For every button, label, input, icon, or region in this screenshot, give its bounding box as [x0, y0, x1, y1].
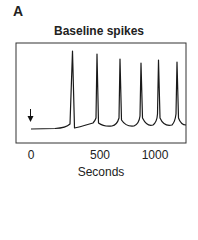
- x-tick-label: 0: [28, 148, 35, 162]
- x-tick-label: 1000: [142, 148, 169, 162]
- plot-frame: [16, 43, 186, 143]
- x-axis-label: Seconds: [0, 165, 198, 179]
- x-tick-label: 500: [90, 148, 110, 162]
- data-line: [31, 51, 186, 129]
- arrow-down-icon: [28, 109, 34, 122]
